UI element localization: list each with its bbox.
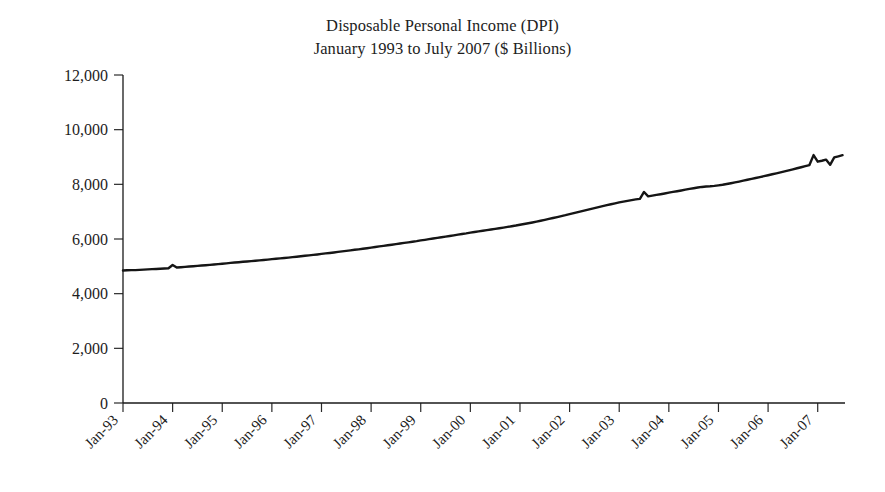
chart-container: Disposable Personal Income (DPI) January… bbox=[0, 0, 885, 492]
x-tick-label: Jan-02 bbox=[528, 412, 568, 452]
x-tick-label: Jan-96 bbox=[230, 411, 270, 451]
x-tick-label: Jan-07 bbox=[776, 411, 816, 451]
x-tick-label: Jan-01 bbox=[478, 412, 518, 452]
x-tick-label: Jan-05 bbox=[677, 412, 717, 452]
y-tick-label: 0 bbox=[100, 395, 108, 412]
x-tick-label: Jan-94 bbox=[131, 411, 171, 451]
x-tick-label: Jan-95 bbox=[181, 412, 221, 452]
y-tick-label: 4,000 bbox=[72, 285, 108, 302]
y-tick-label: 6,000 bbox=[72, 231, 108, 248]
y-tick-label: 8,000 bbox=[72, 176, 108, 193]
x-tick-label: Jan-06 bbox=[727, 411, 767, 451]
x-tick-label: Jan-98 bbox=[330, 412, 370, 452]
x-tick-label: Jan-04 bbox=[627, 411, 667, 451]
y-tick-label: 10,000 bbox=[64, 121, 108, 138]
x-tick-label: Jan-93 bbox=[82, 412, 122, 452]
x-axis-ticks: Jan-93Jan-94Jan-95Jan-96Jan-97Jan-98Jan-… bbox=[82, 403, 818, 451]
x-tick-label: Jan-99 bbox=[379, 412, 419, 452]
x-tick-label: Jan-03 bbox=[578, 412, 618, 452]
x-tick-label: Jan-97 bbox=[280, 411, 320, 451]
line-chart-plot: 02,0004,0006,0008,00010,00012,000 Jan-93… bbox=[0, 0, 885, 492]
y-axis-ticks: 02,0004,0006,0008,00010,00012,000 bbox=[64, 67, 123, 412]
y-tick-label: 12,000 bbox=[64, 67, 108, 84]
dpi-series-line bbox=[123, 155, 843, 270]
x-tick-label: Jan-00 bbox=[429, 412, 469, 452]
y-tick-label: 2,000 bbox=[72, 340, 108, 357]
